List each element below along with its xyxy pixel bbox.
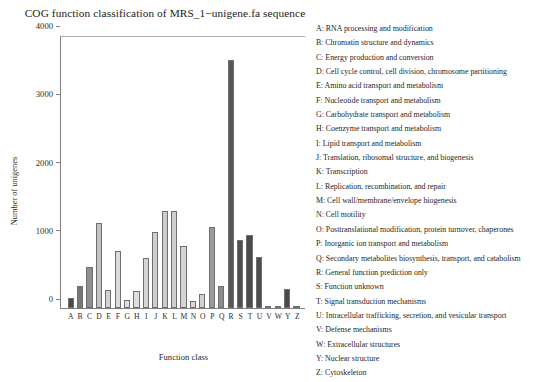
bar-slot bbox=[169, 36, 178, 308]
x-axis-tick-label-T: T bbox=[245, 312, 254, 321]
chart-title: COG function classification of MRS_1−uni… bbox=[0, 7, 330, 19]
bar-slot bbox=[75, 36, 84, 308]
x-axis-tick-label-U: U bbox=[255, 312, 264, 321]
legend-item-N: N: Cell motility bbox=[316, 208, 544, 222]
bar-slot bbox=[264, 36, 273, 308]
bar-O bbox=[199, 294, 205, 308]
bar-T bbox=[246, 235, 252, 308]
x-axis-tick-label-H: H bbox=[132, 312, 141, 321]
legend-item-P: P: Inorganic ion transport and metabolis… bbox=[316, 237, 544, 251]
legend-item-Y: Y: Nuclear structure bbox=[316, 352, 544, 366]
y-axis-tick: 0 bbox=[49, 294, 60, 304]
legend-item-H: H: Coenzyme transport and metabolism bbox=[316, 122, 544, 136]
x-axis-tick-label-D: D bbox=[94, 312, 103, 321]
bar-A bbox=[68, 298, 74, 308]
legend-item-M: M: Cell wall/membrane/envelope biogenesi… bbox=[316, 194, 544, 208]
x-axis-title: Function class bbox=[61, 352, 306, 362]
bar-Z bbox=[293, 306, 299, 308]
bar-slot bbox=[292, 36, 301, 308]
x-axis-tick-label-Q: Q bbox=[217, 312, 226, 321]
legend-item-I: I: Lipid transport and metabolism bbox=[316, 137, 544, 151]
y-axis-tick-mark bbox=[56, 162, 60, 163]
legend-item-E: E: Amino acid transport and metabolism bbox=[316, 79, 544, 93]
bar-E bbox=[105, 290, 111, 308]
bar-U bbox=[256, 257, 262, 308]
bar-slot bbox=[94, 36, 103, 308]
x-axis-tick-labels: ABCDEFGHIJKLMNOPQRSTUVWYZ bbox=[61, 312, 306, 321]
y-axis-tick-mark bbox=[56, 26, 60, 27]
plot-wrap: 01000200030004000 bbox=[60, 36, 305, 309]
bar-S bbox=[237, 240, 243, 308]
legend-item-K: K: Transcription bbox=[316, 165, 544, 179]
bar-J bbox=[152, 232, 158, 308]
x-axis-tick-label-O: O bbox=[198, 312, 207, 321]
legend-item-S: S: Function unknown bbox=[316, 280, 544, 294]
bar-slot bbox=[254, 36, 263, 308]
y-axis-title: Number of unigenes bbox=[10, 157, 19, 225]
bar-slot bbox=[85, 36, 94, 308]
y-axis-tick: 1000 bbox=[36, 226, 60, 236]
y-axis-tick-label: 1000 bbox=[36, 226, 56, 236]
bar-K bbox=[162, 211, 168, 308]
legend-item-O: O: Posttranslational modification, prote… bbox=[316, 223, 544, 237]
bar-slot bbox=[122, 36, 131, 308]
x-axis-tick-label-P: P bbox=[208, 312, 217, 321]
legend: A: RNA processing and modificationB: Chr… bbox=[316, 22, 544, 381]
x-axis-tick-label-F: F bbox=[113, 312, 122, 321]
bar-series bbox=[61, 36, 305, 308]
legend-item-W: W: Extracellular structures bbox=[316, 338, 544, 352]
legend-item-A: A: RNA processing and modification bbox=[316, 22, 544, 36]
bar-slot bbox=[113, 36, 122, 308]
bar-slot bbox=[188, 36, 197, 308]
x-axis-tick-label-I: I bbox=[142, 312, 151, 321]
bar-slot bbox=[179, 36, 188, 308]
legend-item-F: F: Nucleotide transport and metabolism bbox=[316, 94, 544, 108]
x-axis-tick-label-K: K bbox=[160, 312, 169, 321]
x-axis-line bbox=[60, 308, 305, 309]
bar-slot bbox=[104, 36, 113, 308]
bar-V bbox=[265, 306, 271, 308]
legend-item-C: C: Energy production and conversion bbox=[316, 51, 544, 65]
x-axis-tick-label-L: L bbox=[170, 312, 179, 321]
bar-B bbox=[77, 286, 83, 308]
bar-W bbox=[275, 306, 281, 308]
legend-item-Q: Q: Secondary metabolites biosynthesis, t… bbox=[316, 252, 544, 266]
legend-item-U: U: Intracellular trafficking, secretion,… bbox=[316, 309, 544, 323]
y-axis-tick-mark bbox=[56, 299, 60, 300]
y-axis-tick-label: 3000 bbox=[36, 89, 56, 99]
legend-item-T: T: Signal transduction mechanisms bbox=[316, 295, 544, 309]
x-axis-tick-label-E: E bbox=[104, 312, 113, 321]
legend-item-R: R: General function prediction only bbox=[316, 266, 544, 280]
bar-slot bbox=[273, 36, 282, 308]
bar-slot bbox=[151, 36, 160, 308]
legend-item-Z: Z: Cytoskeleton bbox=[316, 366, 544, 380]
bar-slot bbox=[66, 36, 75, 308]
y-axis-tick-mark bbox=[56, 94, 60, 95]
bar-I bbox=[143, 258, 149, 308]
bar-slot bbox=[226, 36, 235, 308]
bar-M bbox=[180, 246, 186, 308]
x-axis-tick-label-S: S bbox=[236, 312, 245, 321]
legend-item-V: V: Defense mechanisms bbox=[316, 323, 544, 337]
x-axis-tick-label-Z: Z bbox=[293, 312, 302, 321]
bar-Y bbox=[284, 289, 290, 308]
bar-P bbox=[209, 227, 215, 308]
bar-D bbox=[96, 223, 102, 308]
bar-R bbox=[228, 60, 234, 308]
bar-slot bbox=[217, 36, 226, 308]
y-axis-tick-label: 2000 bbox=[36, 158, 56, 168]
bar-slot bbox=[141, 36, 150, 308]
y-axis-tick-mark bbox=[56, 230, 60, 231]
bar-G bbox=[124, 300, 130, 308]
bar-H bbox=[133, 291, 139, 308]
legend-item-J: J: Translation, ribosomal structure, and… bbox=[316, 151, 544, 165]
y-axis-tick: 2000 bbox=[36, 158, 60, 168]
legend-item-D: D: Cell cycle control, cell division, ch… bbox=[316, 65, 544, 79]
legend-item-G: G: Carbohydrate transport and metabolism bbox=[316, 108, 544, 122]
y-axis-tick-label: 0 bbox=[49, 294, 56, 304]
cog-classification-figure: COG function classification of MRS_1−uni… bbox=[0, 0, 544, 382]
x-axis-tick-label-C: C bbox=[85, 312, 94, 321]
bar-Q bbox=[218, 286, 224, 308]
bar-L bbox=[171, 211, 177, 308]
bar-slot bbox=[160, 36, 169, 308]
